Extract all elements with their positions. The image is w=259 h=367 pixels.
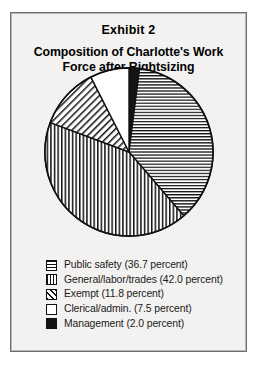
legend-label-clerical-admin: Clerical/admin. (7.5 percent) xyxy=(64,303,192,315)
legend-swatch-solid-black-icon xyxy=(46,318,57,329)
figure-frame: Exhibit 2 Composition of Charlotte's Wor… xyxy=(10,12,247,352)
legend-item-exempt: Exempt (11.8 percent) xyxy=(46,287,236,302)
legend-label-public-safety: Public safety (36.7 percent) xyxy=(64,259,188,271)
legend-item-management: Management (2.0 percent) xyxy=(46,316,236,331)
figure-inner-panel: Exhibit 2 Composition of Charlotte's Wor… xyxy=(11,13,246,351)
pie-slices xyxy=(45,68,213,236)
legend-item-clerical-admin: Clerical/admin. (7.5 percent) xyxy=(46,302,236,317)
pie-chart-area xyxy=(12,66,245,252)
chart-legend: Public safety (36.7 percent) General/lab… xyxy=(46,258,236,331)
legend-label-general-labor-trades: General/labor/trades (42.0 percent) xyxy=(64,274,223,286)
legend-item-general-labor-trades: General/labor/trades (42.0 percent) xyxy=(46,273,236,288)
legend-label-exempt: Exempt (11.8 percent) xyxy=(64,288,164,300)
pie-chart xyxy=(43,66,215,238)
legend-swatch-empty-icon xyxy=(46,304,57,315)
legend-item-public-safety: Public safety (36.7 percent) xyxy=(46,258,236,273)
legend-swatch-diagonal-hatch-icon xyxy=(46,289,57,300)
exhibit-figure: Exhibit 2 Composition of Charlotte's Wor… xyxy=(0,0,259,367)
exhibit-label: Exhibit 2 xyxy=(12,22,245,38)
legend-label-management: Management (2.0 percent) xyxy=(64,318,184,330)
legend-swatch-vertical-lines-icon xyxy=(46,274,57,285)
legend-swatch-horizontal-lines-icon xyxy=(46,260,57,271)
